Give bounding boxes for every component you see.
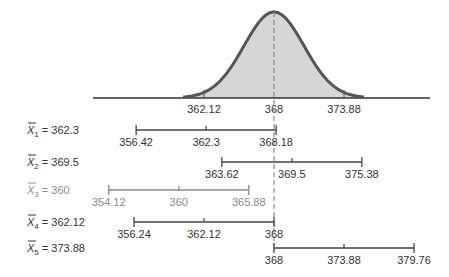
interval-row: X3 = 360354.12360365.88: [26, 183, 266, 208]
lower-bound-label: 368: [265, 254, 283, 266]
upper-bound-label: 365.88: [232, 196, 266, 208]
upper-bound-label: 379.76: [397, 254, 431, 266]
lower-bound-label: 354.12: [92, 196, 126, 208]
sample-mean-value-label: 373.88: [327, 254, 361, 266]
interval-row: X2 = 369.5363.62369.5375.38: [26, 155, 379, 180]
sample-mean-label: X1 = 362.3: [26, 124, 79, 139]
upper-bound-label: 368: [265, 228, 283, 240]
lower-bound-label: 363.62: [205, 168, 239, 180]
sample-mean-label: X4 = 362.12: [26, 216, 85, 231]
interval-row: X1 = 362.3356.42362.3368.18: [26, 123, 293, 148]
confidence-interval-diagram: 362.12368373.88 X1 = 362.3356.42362.3368…: [0, 0, 449, 277]
sample-mean-label: X2 = 369.5: [26, 156, 79, 171]
upper-bound-label: 368.18: [259, 136, 293, 148]
sample-mean-value-label: 360: [170, 196, 188, 208]
sample-mean-value-label: 362.12: [187, 228, 221, 240]
sample-mean-label: X3 = 360: [26, 184, 70, 199]
interval-row: X5 = 373.88368373.88379.76: [26, 241, 431, 266]
upper-bound-label: 375.38: [345, 168, 379, 180]
sample-mean-value-label: 362.3: [192, 136, 220, 148]
interval-row: X4 = 362.12356.24362.12368: [26, 215, 283, 240]
axis-tick-label: 362.12: [187, 103, 221, 115]
sample-mean-value-label: 369.5: [278, 168, 306, 180]
axis-tick-label: 373.88: [327, 103, 361, 115]
lower-bound-label: 356.24: [117, 228, 151, 240]
lower-bound-label: 356.42: [119, 136, 153, 148]
sample-mean-label: X5 = 373.88: [26, 242, 85, 257]
